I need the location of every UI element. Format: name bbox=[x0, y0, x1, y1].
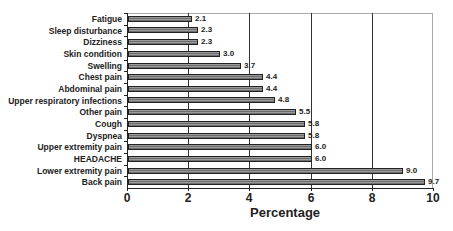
bar bbox=[128, 16, 192, 22]
bar bbox=[128, 168, 403, 174]
bar bbox=[128, 39, 198, 45]
value-label: 5.8 bbox=[308, 131, 319, 140]
value-label: 2.3 bbox=[201, 37, 212, 46]
y-axis bbox=[127, 13, 128, 189]
value-label: 9.7 bbox=[428, 177, 439, 186]
category-label: Dizziness bbox=[83, 37, 122, 47]
bar bbox=[128, 179, 425, 185]
value-label: 3.7 bbox=[244, 61, 255, 70]
category-label: Fatigue bbox=[92, 14, 122, 24]
category-label: Skin condition bbox=[63, 49, 122, 59]
category-label: Other pain bbox=[79, 107, 122, 117]
category-label: Swelling bbox=[88, 61, 122, 71]
x-tick-label: 10 bbox=[418, 191, 448, 205]
category-label: Lower extremity pain bbox=[37, 166, 122, 176]
x-tick-label: 2 bbox=[173, 191, 203, 205]
bar bbox=[128, 133, 305, 139]
value-label: 3.0 bbox=[223, 49, 234, 58]
category-label: HEADACHE bbox=[74, 154, 122, 164]
category-label: Back pain bbox=[82, 177, 122, 187]
horizontal-bar-chart: Fatigue2.1Sleep disturbance2.3Dizziness2… bbox=[0, 0, 453, 231]
bar bbox=[128, 156, 312, 162]
x-tick-label: 8 bbox=[357, 191, 387, 205]
bar bbox=[128, 27, 198, 33]
value-label: 4.4 bbox=[266, 72, 277, 81]
bar bbox=[128, 144, 312, 150]
bar bbox=[128, 51, 220, 57]
category-label: Upper extremity pain bbox=[37, 142, 122, 152]
x-tick-label: 6 bbox=[296, 191, 326, 205]
value-label: 2.1 bbox=[195, 14, 206, 23]
value-label: 6.0 bbox=[315, 142, 326, 151]
value-label: 5.5 bbox=[299, 107, 310, 116]
bar bbox=[128, 109, 296, 115]
x-tick-label: 0 bbox=[112, 191, 142, 205]
bar bbox=[128, 97, 275, 103]
value-label: 9.0 bbox=[406, 166, 417, 175]
category-label: Upper respiratory infections bbox=[8, 96, 122, 106]
category-label: Cough bbox=[95, 119, 122, 129]
bar bbox=[128, 86, 263, 92]
value-label: 6.0 bbox=[315, 154, 326, 163]
category-label: Dyspnea bbox=[87, 131, 122, 141]
category-label: Sleep disturbance bbox=[49, 26, 122, 36]
value-label: 4.8 bbox=[278, 95, 289, 104]
bar bbox=[128, 74, 263, 80]
bar bbox=[128, 121, 305, 127]
category-label: Abdominal pain bbox=[58, 84, 122, 94]
x-axis-title: Percentage bbox=[250, 205, 320, 220]
x-tick-label: 4 bbox=[234, 191, 264, 205]
value-label: 5.8 bbox=[308, 119, 319, 128]
x-axis bbox=[127, 188, 433, 189]
category-label: Chest pain bbox=[79, 72, 122, 82]
value-label: 2.3 bbox=[201, 25, 212, 34]
value-label: 4.4 bbox=[266, 84, 277, 93]
gridline bbox=[372, 13, 373, 188]
bar bbox=[128, 63, 241, 69]
